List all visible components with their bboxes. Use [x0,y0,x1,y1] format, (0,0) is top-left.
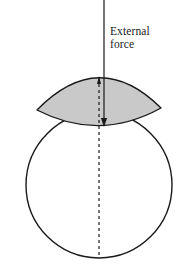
external-force-label: External force [110,25,150,50]
external-force-label-line-2: force [110,38,150,51]
external-force-label-line-1: External [110,25,150,38]
sphere-force-diagram [0,0,196,269]
figure-container: External force [0,0,196,269]
